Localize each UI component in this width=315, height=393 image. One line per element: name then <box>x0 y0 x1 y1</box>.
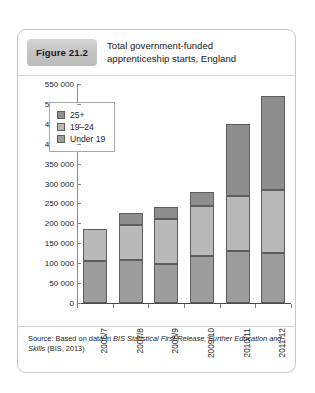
bar-segment-19-24 <box>154 219 178 264</box>
bar-segment-under-19 <box>119 260 143 303</box>
bar-group <box>83 229 107 303</box>
x-axis-tick-mark <box>291 304 292 308</box>
figure-title-line-2: apprenticeship starts, England <box>107 53 236 65</box>
bar-group <box>190 192 214 303</box>
bar-segment-under-19 <box>154 264 178 303</box>
bar-segment-19-24 <box>226 196 250 252</box>
legend-label-19-24: 19–24 <box>70 122 94 132</box>
bar-segment-under-19 <box>83 261 107 303</box>
bar-segment-19-24 <box>119 225 143 261</box>
source-text: Source: Based on data in BIS Statistical… <box>28 334 284 355</box>
y-axis-tick-mark <box>77 263 81 264</box>
x-axis-tick-mark <box>148 304 149 308</box>
bar-segment-under-19 <box>226 251 250 303</box>
y-axis-tick-label: 200 000 <box>26 219 74 228</box>
y-axis-tick-mark <box>77 144 81 145</box>
y-axis-tick-mark <box>77 184 81 185</box>
y-axis-tick-label: 550 000 <box>26 80 74 89</box>
x-axis-tick-mark <box>77 304 78 308</box>
legend-item-under-19: Under 19 <box>57 133 105 145</box>
figure-number-badge: Figure 21.2 <box>27 39 97 66</box>
x-axis-tick-mark <box>113 304 114 308</box>
bar-segment-25plus <box>261 96 285 190</box>
legend-label-25plus: 25+ <box>70 110 85 120</box>
y-axis-tick-label: 350 000 <box>26 159 74 168</box>
figure-title: Total government-funded apprenticeship s… <box>107 40 236 65</box>
legend-swatch-under-19 <box>57 135 65 143</box>
figure-card: Figure 21.2 Total government-funded appr… <box>17 29 296 373</box>
x-axis-tick-mark <box>184 304 185 308</box>
y-axis-tick-label: 150 000 <box>26 239 74 248</box>
source-prefix: Source: Based on data in <box>28 334 113 343</box>
y-axis-tick-mark <box>77 164 81 165</box>
bar-group <box>154 207 178 303</box>
chart-plot-area: 550 000500 000450 000400 000350 000300 0… <box>18 76 295 328</box>
legend-item-25plus: 25+ <box>57 109 105 121</box>
bar-segment-25plus <box>190 192 214 207</box>
x-axis-tick-mark <box>255 304 256 308</box>
bar-segment-19-24 <box>261 190 285 254</box>
y-axis-tick-mark <box>77 243 81 244</box>
legend-item-19-24: 19–24 <box>57 121 105 133</box>
y-axis-tick-mark <box>77 84 81 85</box>
bar-group <box>261 96 285 303</box>
y-axis-tick-mark <box>77 104 81 105</box>
y-axis-tick-mark <box>77 283 81 284</box>
legend-label-under-19: Under 19 <box>70 134 105 144</box>
figure-source-note: Source: Based on data in BIS Statistical… <box>18 326 295 372</box>
source-suffix: (BIS, 2013) <box>45 344 84 353</box>
y-axis-tick-label: 250 000 <box>26 199 74 208</box>
y-axis-tick-label: 300 000 <box>26 179 74 188</box>
y-axis-tick-mark <box>77 203 81 204</box>
bar-segment-19-24 <box>83 229 107 261</box>
bar-group <box>226 124 250 303</box>
source-publication-cont: Skills <box>28 344 45 353</box>
figure-title-line-1: Total government-funded <box>107 40 236 52</box>
bar-segment-25plus <box>119 213 143 224</box>
bar-segment-25plus <box>154 207 178 219</box>
bar-segment-under-19 <box>261 253 285 303</box>
legend-swatch-25plus <box>57 111 65 119</box>
source-publication: BIS Statistical First Release, Further E… <box>113 334 281 343</box>
chart-legend: 25+ 19–24 Under 19 <box>49 102 115 152</box>
y-axis-tick-mark <box>77 124 81 125</box>
y-axis-tick-label: 100 000 <box>26 259 74 268</box>
y-axis-tick-mark <box>77 223 81 224</box>
bar-segment-25plus <box>226 124 250 196</box>
bar-segment-19-24 <box>190 206 214 256</box>
figure-header: Figure 21.2 Total government-funded appr… <box>18 30 295 76</box>
bar-group <box>119 213 143 303</box>
legend-swatch-19-24 <box>57 123 65 131</box>
y-axis-tick-label: 50 000 <box>26 279 74 288</box>
x-axis-tick-mark <box>220 304 221 308</box>
y-axis-tick-label: 0 <box>26 299 74 308</box>
bar-segment-under-19 <box>190 256 214 303</box>
